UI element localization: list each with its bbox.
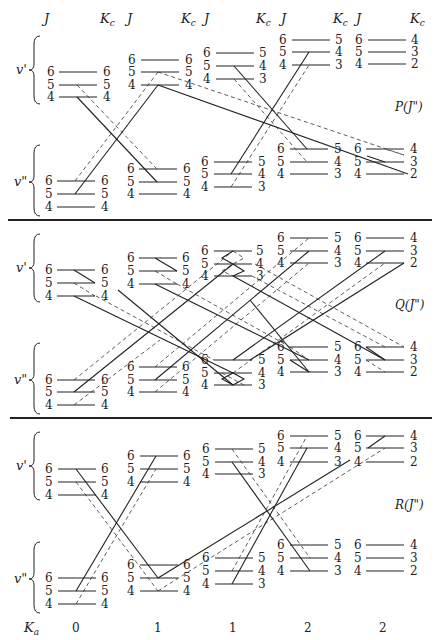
svg-text:4: 4 — [183, 475, 191, 489]
brace-upper — [29, 432, 40, 500]
ka-axis-label: Ka — [23, 620, 39, 637]
state-label-lower: v" — [14, 174, 27, 189]
svg-text:6: 6 — [354, 231, 362, 245]
branch-label-p: P(J") — [394, 100, 423, 114]
svg-text:5: 5 — [185, 65, 193, 79]
panel-p: v' v" 66 55 44 66 55 44 65 54 43 65 54 4… — [14, 33, 423, 216]
svg-text:6: 6 — [45, 174, 53, 188]
svg-text:5: 5 — [334, 340, 342, 354]
ka-value-1: 1 — [154, 621, 162, 635]
svg-text:3: 3 — [334, 564, 342, 578]
svg-text:5: 5 — [45, 385, 53, 399]
svg-text:6: 6 — [202, 442, 210, 456]
svg-text:4: 4 — [354, 365, 362, 379]
upper-levels: 66 55 44 66 55 44 65 54 43 65 54 43 64 5… — [45, 429, 418, 502]
svg-text:5: 5 — [201, 167, 209, 181]
svg-text:4: 4 — [202, 467, 210, 481]
svg-text:4: 4 — [127, 277, 135, 291]
brace-lower — [29, 145, 40, 216]
svg-text:2: 2 — [410, 256, 418, 270]
svg-text:5: 5 — [183, 462, 191, 476]
svg-text:4: 4 — [410, 340, 418, 354]
svg-text:4: 4 — [45, 289, 53, 303]
svg-text:5: 5 — [127, 264, 135, 278]
brace-upper — [29, 36, 40, 104]
svg-text:4: 4 — [128, 78, 136, 92]
svg-text:6: 6 — [101, 174, 109, 188]
svg-text:5: 5 — [277, 441, 285, 455]
svg-text:5: 5 — [183, 571, 191, 585]
svg-text:6: 6 — [101, 263, 109, 277]
svg-text:5: 5 — [258, 353, 266, 367]
svg-text:4: 4 — [127, 385, 135, 399]
svg-text:4: 4 — [354, 167, 362, 181]
svg-text:6: 6 — [277, 538, 285, 552]
svg-text:4: 4 — [277, 455, 285, 469]
ka-value-4: 2 — [379, 621, 387, 635]
svg-text:4: 4 — [277, 167, 285, 181]
svg-text:4: 4 — [334, 441, 342, 455]
svg-text:4: 4 — [45, 200, 53, 214]
header-j-0: J — [41, 11, 50, 26]
svg-text:4: 4 — [101, 488, 109, 502]
svg-text:4: 4 — [45, 398, 53, 412]
svg-text:6: 6 — [45, 263, 53, 277]
svg-text:5: 5 — [45, 475, 53, 489]
svg-text:5: 5 — [334, 231, 342, 245]
svg-text:3: 3 — [410, 551, 418, 565]
branch-label-r: R(J") — [394, 498, 424, 512]
svg-text:5: 5 — [101, 187, 109, 201]
lower-levels: 66 55 44 66 55 44 65 54 43 65 54 43 64 5… — [45, 340, 418, 412]
svg-text:6: 6 — [182, 251, 190, 265]
header-j-4: J — [353, 11, 362, 26]
svg-text:2: 2 — [410, 365, 418, 379]
state-label-upper: v' — [16, 458, 27, 473]
svg-text:6: 6 — [277, 142, 285, 156]
svg-text:2: 2 — [410, 455, 418, 469]
svg-text:3: 3 — [258, 180, 266, 194]
svg-text:6: 6 — [127, 162, 135, 176]
svg-text:4: 4 — [47, 90, 55, 104]
svg-text:5: 5 — [101, 276, 109, 290]
svg-text:4: 4 — [185, 78, 193, 92]
branch-label-q: Q(J") — [395, 298, 425, 312]
svg-text:5: 5 — [258, 551, 266, 565]
svg-text:4: 4 — [410, 538, 418, 552]
state-label-upper: v' — [16, 260, 27, 275]
ka-footer: Ka 0 1 1 2 2 — [23, 620, 387, 637]
svg-text:6: 6 — [127, 449, 135, 463]
svg-text:4: 4 — [127, 187, 135, 201]
state-label-lower: v" — [14, 571, 27, 586]
svg-text:6: 6 — [203, 46, 211, 60]
panel-q: v' v" 66 55 44 66 55 44 65 54 43 65 54 4… — [14, 231, 425, 414]
svg-text:4: 4 — [127, 584, 135, 598]
svg-text:3: 3 — [334, 256, 342, 270]
svg-text:6: 6 — [201, 244, 209, 258]
header-kc-1: Kc — [180, 11, 196, 28]
svg-text:3: 3 — [334, 167, 342, 181]
svg-text:4: 4 — [355, 57, 363, 71]
svg-text:5: 5 — [334, 538, 342, 552]
svg-text:4: 4 — [182, 385, 190, 399]
upper-levels: 66 55 44 66 55 44 65 54 43 65 54 43 64 5… — [47, 33, 419, 104]
svg-text:6: 6 — [127, 251, 135, 265]
svg-text:4: 4 — [201, 378, 209, 392]
svg-text:4: 4 — [101, 398, 109, 412]
svg-text:4: 4 — [202, 577, 210, 591]
svg-text:5: 5 — [45, 276, 53, 290]
svg-text:4: 4 — [258, 564, 266, 578]
header-j-2: J — [201, 11, 210, 26]
svg-text:4: 4 — [259, 59, 267, 73]
svg-text:6: 6 — [101, 462, 109, 476]
svg-text:6: 6 — [127, 558, 135, 572]
svg-text:5: 5 — [101, 475, 109, 489]
svg-text:3: 3 — [258, 378, 266, 392]
svg-text:5: 5 — [354, 551, 362, 565]
svg-text:6: 6 — [47, 65, 55, 79]
svg-text:4: 4 — [103, 90, 111, 104]
ka-value-3: 2 — [304, 621, 312, 635]
svg-text:5: 5 — [182, 264, 190, 278]
svg-text:5: 5 — [203, 59, 211, 73]
svg-text:4: 4 — [45, 597, 53, 611]
svg-text:5: 5 — [45, 584, 53, 598]
